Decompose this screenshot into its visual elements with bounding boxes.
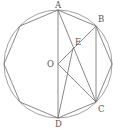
label-E: E bbox=[75, 37, 81, 47]
label-B: B bbox=[98, 14, 104, 24]
label-A: A bbox=[54, 0, 62, 10]
geometry-diagram: A B E O C D bbox=[0, 0, 113, 129]
segment-DE bbox=[58, 48, 73, 118]
segments-group bbox=[58, 10, 96, 118]
label-C: C bbox=[98, 104, 105, 114]
label-O: O bbox=[47, 59, 54, 69]
label-D: D bbox=[55, 119, 62, 129]
segment-OC bbox=[58, 64, 96, 102]
